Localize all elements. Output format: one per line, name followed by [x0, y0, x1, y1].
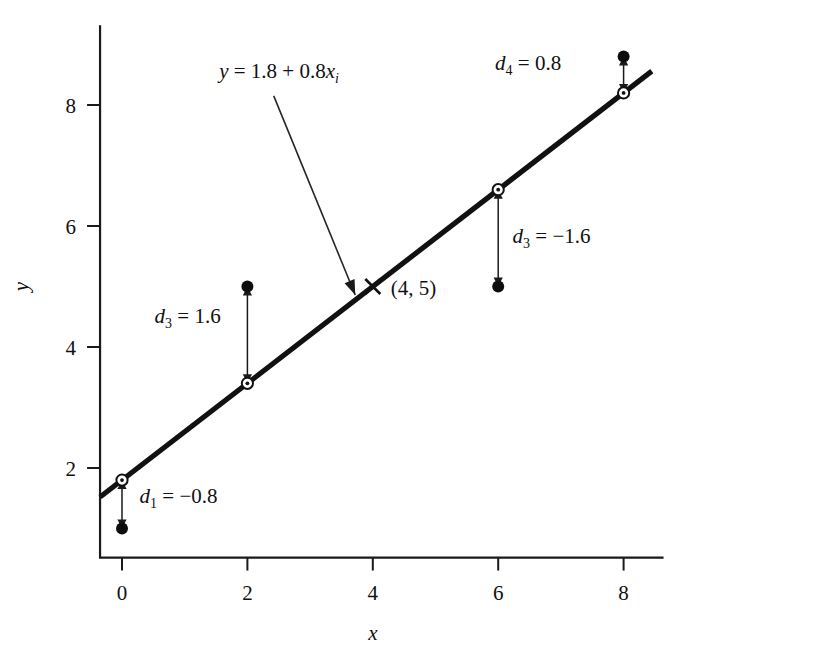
y-axis-tick-label: 4	[66, 336, 77, 360]
scatter-plot-svg: 024682468xyd1 = −0.8d3 = 1.6d3 = −1.6d4 …	[0, 0, 820, 646]
residual-label: d4 = 0.8	[495, 51, 561, 78]
y-axis-tick-label: 8	[66, 94, 77, 118]
equation-leader-line	[274, 96, 356, 295]
equation-leader-arrowhead	[345, 279, 356, 295]
residual-label: d1 = −0.8	[140, 484, 218, 511]
x-axis-tick-label: 2	[242, 581, 253, 605]
observed-data-point	[116, 523, 128, 535]
figure-container: 024682468xyd1 = −0.8d3 = 1.6d3 = −1.6d4 …	[0, 0, 820, 646]
x-axis-title: x	[367, 621, 378, 645]
observed-data-point	[241, 281, 253, 293]
observed-data-point	[618, 51, 630, 63]
highlight-point-label: (4, 5)	[391, 276, 437, 300]
fitted-value-marker-core	[120, 478, 124, 482]
x-axis-tick-label: 4	[368, 581, 379, 605]
plot-axes	[100, 26, 662, 557]
y-axis-tick-label: 6	[66, 215, 77, 239]
fitted-value-marker-core	[246, 381, 250, 385]
x-axis-tick-label: 8	[618, 581, 629, 605]
residual-label: d3 = 1.6	[155, 304, 221, 331]
y-axis-title: y	[9, 281, 33, 293]
y-axis-tick-label: 2	[66, 457, 77, 481]
fitted-value-marker-core	[496, 188, 500, 192]
observed-data-point	[492, 281, 504, 293]
x-axis-tick-label: 6	[493, 581, 504, 605]
x-axis-tick-label: 0	[117, 581, 128, 605]
equation-annotation-label: y = 1.8 + 0.8xi	[217, 59, 339, 86]
fitted-value-marker-core	[622, 91, 626, 95]
residual-label: d3 = −1.6	[513, 224, 591, 251]
